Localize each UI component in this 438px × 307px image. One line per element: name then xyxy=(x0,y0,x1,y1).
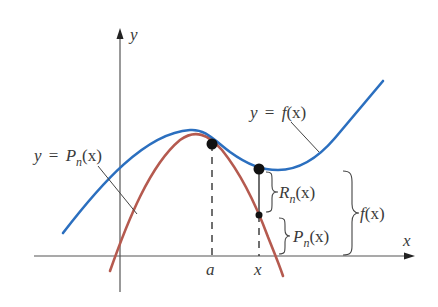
pn-curve-label: y = Pn(x) xyxy=(32,146,102,169)
tangent-point-a xyxy=(207,139,218,150)
x-axis-arrow-icon xyxy=(404,253,415,260)
f-label-leader xyxy=(291,122,319,152)
polynomial-brace xyxy=(279,218,290,254)
tick-label-a: a xyxy=(206,260,215,279)
y-axis-label: y xyxy=(128,25,138,44)
f-curve-label: y = f(x) xyxy=(248,103,306,122)
tick-label-x: x xyxy=(253,260,262,279)
x-axis-label: x xyxy=(402,231,411,250)
remainder-label: Rn(x) xyxy=(278,183,315,206)
remainder-brace xyxy=(266,172,278,212)
pn-label-leader xyxy=(98,166,137,214)
f-of-x-point xyxy=(254,164,265,175)
polynomial-label: Pn(x) xyxy=(292,227,329,250)
diagram-canvas: y x a x y = f(x) y = Pn(x) xyxy=(0,0,438,307)
pn-of-x-point xyxy=(256,212,263,219)
function-brace xyxy=(343,171,359,255)
f-curve xyxy=(63,81,383,233)
y-axis-arrow-icon xyxy=(117,28,124,39)
function-label: f(x) xyxy=(360,204,385,223)
taylor-remainder-diagram: y x a x y = f(x) y = Pn(x) xyxy=(0,0,438,307)
